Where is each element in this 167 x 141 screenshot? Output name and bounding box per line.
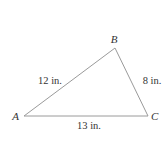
vertex-b-label: B <box>111 33 118 45</box>
side-ac-length-label: 13 in. <box>77 120 101 131</box>
vertex-a-label: A <box>11 110 19 122</box>
side-bc-length-label: 8 in. <box>143 75 162 86</box>
triangle-diagram: A B C 12 in. 8 in. 13 in. <box>0 0 167 141</box>
side-ab-length-label: 12 in. <box>38 75 62 86</box>
vertex-c-label: C <box>151 110 159 122</box>
